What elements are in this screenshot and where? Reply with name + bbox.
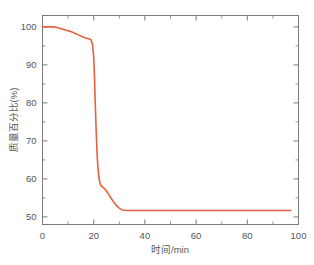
- y-tick-label: 50: [26, 211, 37, 222]
- x-tick-label: 80: [242, 230, 253, 241]
- data-series-line: [43, 27, 291, 211]
- x-tick-label: 60: [191, 230, 202, 241]
- x-tick-label: 20: [88, 230, 99, 241]
- x-tick-label: 100: [291, 230, 307, 241]
- y-tick-label: 70: [26, 135, 37, 146]
- x-axis-title: 时间/min: [151, 244, 189, 255]
- x-tick-label: 0: [40, 230, 45, 241]
- x-axis-tick-labels: 020406080100: [40, 230, 307, 241]
- chart-figure: 020406080100 5060708090100 时间/min 质量百分比(…: [0, 0, 314, 265]
- chart-canvas: 020406080100 5060708090100 时间/min 质量百分比(…: [0, 0, 314, 265]
- y-tick-label: 100: [21, 21, 37, 32]
- y-axis-tick-labels: 5060708090100: [21, 21, 37, 222]
- y-tick-label: 90: [26, 59, 37, 70]
- y-tick-label: 80: [26, 97, 37, 108]
- y-axis-major-ticks: [43, 27, 299, 217]
- y-axis-title: 质量百分比(%): [8, 88, 19, 153]
- y-tick-label: 60: [26, 173, 37, 184]
- x-axis-major-ticks: [43, 16, 299, 225]
- y-axis-minor-ticks: [43, 46, 299, 198]
- x-axis-minor-ticks: [68, 16, 273, 225]
- x-tick-label: 40: [140, 230, 151, 241]
- plot-frame: [43, 16, 299, 225]
